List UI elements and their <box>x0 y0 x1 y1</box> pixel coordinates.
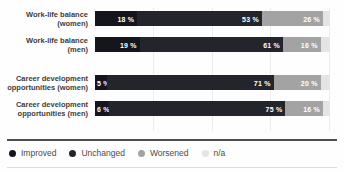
bar-segment-na <box>321 75 330 90</box>
bar-segment-improved: 18 % <box>95 11 137 26</box>
bar-segment-worsened: 16 % <box>285 101 323 116</box>
category-label-line2: opportunities (men) <box>0 109 88 118</box>
segment-value-label: 20 % <box>301 79 318 86</box>
segment-value-label: 53 % <box>242 15 259 22</box>
bar-segment-worsened: 20 % <box>274 75 321 90</box>
bar-segment-improved: 5 % <box>95 75 107 90</box>
legend-label: Unchanged <box>81 148 124 158</box>
category-label: Work-life balance(women) <box>0 9 88 28</box>
legend-top-divider <box>7 139 337 141</box>
bottom-divider <box>7 167 337 168</box>
segment-value-label: 16 % <box>301 41 318 48</box>
bar-segment-unchanged: 53 % <box>137 11 262 26</box>
legend-dot-icon <box>9 150 16 157</box>
category-label: Career developmentopportunities (women) <box>0 73 88 92</box>
category-label: Career developmentopportunities (men) <box>0 99 88 118</box>
segment-value-label: 16 % <box>303 105 320 112</box>
legend-dot-icon <box>138 150 145 157</box>
segment-value-label: 18 % <box>118 15 135 22</box>
bar-row: 18 %53 %26 % <box>95 11 330 26</box>
bar-row: 19 %61 %16 % <box>95 37 330 52</box>
legend-item-unchanged: Unchanged <box>69 148 124 158</box>
category-label-line1: Career development <box>0 100 88 109</box>
bar-segment-na <box>323 101 330 116</box>
category-label-line1: Work-life balance <box>0 10 88 19</box>
category-label: Work-life balance(men) <box>0 35 88 54</box>
bar-segment-worsened: 26 % <box>262 11 323 26</box>
category-label-line2: opportunities (women) <box>0 83 88 92</box>
segment-value-label: 26 % <box>303 15 320 22</box>
bar-segment-unchanged: 75 % <box>109 101 285 116</box>
category-label-line2: (women) <box>0 19 88 28</box>
bar-segment-na <box>323 11 330 26</box>
category-label-line2: (men) <box>0 45 88 54</box>
segment-value-label: 61 % <box>263 41 280 48</box>
bar-segment-na <box>321 37 330 52</box>
category-label-line1: Work-life balance <box>0 36 88 45</box>
category-label-line1: Career development <box>0 74 88 83</box>
bar-segment-worsened: 16 % <box>283 37 321 52</box>
segment-value-label: 75 % <box>266 105 283 112</box>
bar-row: 5 %71 %20 % <box>95 75 330 90</box>
bar-segment-improved: 19 % <box>95 37 140 52</box>
legend-label: Worsened <box>150 148 189 158</box>
survey-results-chart-card: Work-life balance(women)18 %53 %26 %Work… <box>0 0 344 172</box>
segment-value-label: 6 % <box>97 105 110 112</box>
legend-label: Improved <box>21 148 56 158</box>
legend-dot-icon <box>202 150 209 157</box>
segment-value-label: 19 % <box>120 41 137 48</box>
bar-segment-unchanged: 61 % <box>140 37 283 52</box>
segment-value-label: 71 % <box>254 79 271 86</box>
legend-dot-icon <box>69 150 76 157</box>
legend-label: n/a <box>214 148 226 158</box>
bar-row: 6 %75 %16 % <box>95 101 330 116</box>
legend-item-na: n/a <box>202 148 226 158</box>
legend-item-worsened: Worsened <box>138 148 189 158</box>
bar-segment-unchanged: 71 % <box>107 75 274 90</box>
bar-segment-improved: 6 % <box>95 101 109 116</box>
legend-item-improved: Improved <box>9 148 56 158</box>
chart-legend: ImprovedUnchangedWorsenedn/a <box>9 148 225 158</box>
